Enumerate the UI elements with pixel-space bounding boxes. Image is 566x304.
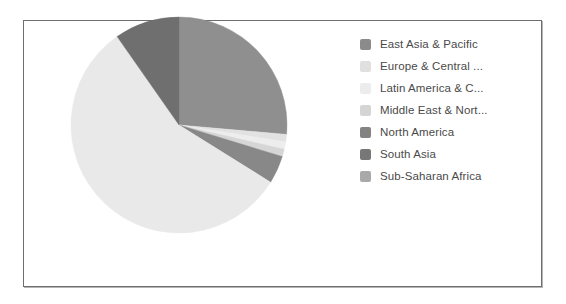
legend-item-label: Europe & Central ... xyxy=(380,55,483,77)
chart-panel: East Asia & Pacific Europe & Central ...… xyxy=(23,20,542,287)
pie-slice[interactable] xyxy=(179,17,287,134)
legend-item-south-asia[interactable]: South Asia xyxy=(360,143,535,165)
legend-item-sub-saharan-africa[interactable]: Sub-Saharan Africa xyxy=(360,165,535,187)
legend-item-north-america[interactable]: North America xyxy=(360,121,535,143)
legend-swatch-icon xyxy=(360,39,371,50)
pie-slice-group xyxy=(71,17,287,233)
legend-item-europe-central-asia[interactable]: Europe & Central ... xyxy=(360,55,535,77)
legend-item-label: North America xyxy=(380,121,454,143)
legend-item-label: East Asia & Pacific xyxy=(380,33,478,55)
pie-chart xyxy=(69,15,289,235)
legend-swatch-icon xyxy=(360,149,371,160)
legend-item-label: Middle East & Nort... xyxy=(380,99,488,121)
legend-item-latin-america-caribbean[interactable]: Latin America & C... xyxy=(360,77,535,99)
chart-area: East Asia & Pacific Europe & Central ...… xyxy=(24,21,543,286)
chart-legend: East Asia & Pacific Europe & Central ...… xyxy=(360,33,535,187)
legend-swatch-icon xyxy=(360,171,371,182)
legend-item-label: Latin America & C... xyxy=(380,77,484,99)
legend-item-label: South Asia xyxy=(380,143,436,165)
legend-swatch-icon xyxy=(360,127,371,138)
legend-swatch-icon xyxy=(360,61,371,72)
legend-item-east-asia-pacific[interactable]: East Asia & Pacific xyxy=(360,33,535,55)
legend-item-middle-east-north-africa[interactable]: Middle East & Nort... xyxy=(360,99,535,121)
legend-swatch-icon xyxy=(360,105,371,116)
legend-swatch-icon xyxy=(360,83,371,94)
legend-item-label: Sub-Saharan Africa xyxy=(380,165,482,187)
pie-chart-svg xyxy=(69,15,289,235)
